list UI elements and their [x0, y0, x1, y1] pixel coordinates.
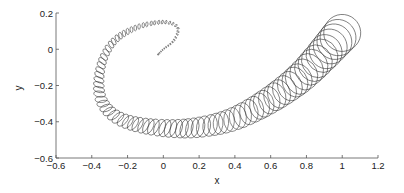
x-tick-label: 0.4	[228, 160, 241, 171]
trajectory-ellipse	[157, 20, 160, 25]
trajectory-ellipse	[189, 116, 207, 139]
trajectory-ellipse	[168, 21, 171, 25]
x-tick-label: 1.2	[371, 160, 384, 171]
trajectory-ellipse	[93, 90, 106, 98]
x-ticks: −0.6−0.4−0.200.20.40.60.811.2	[47, 155, 385, 171]
trajectory-ellipse	[159, 52, 160, 53]
trajectory-ellipse	[150, 21, 153, 26]
trajectory-ellipse	[99, 103, 113, 114]
trajectory-ellipse	[138, 24, 141, 30]
trajectory-ellipse	[115, 112, 131, 128]
trajectory-ellipse	[94, 70, 106, 79]
trajectory-ellipse	[177, 30, 180, 32]
trajectory-ellipse	[122, 30, 126, 37]
trajectory-ellipse	[166, 46, 167, 48]
trajectory-ellipse	[110, 110, 126, 125]
trajectory-ellipse	[145, 22, 148, 27]
trajectory-ellipse	[142, 23, 145, 28]
trajectory-ellipse	[170, 43, 171, 45]
trajectory-ellipse	[172, 41, 174, 43]
trajectory-ellipse	[161, 20, 164, 24]
y-axis-label: y	[13, 86, 24, 91]
trajectory-ellipse	[126, 28, 130, 35]
x-tick-label: −0.2	[118, 160, 137, 171]
trajectory-ellipse	[93, 75, 105, 84]
trajectory-ellipse	[120, 113, 136, 130]
trajectory-ellipse	[296, 40, 338, 83]
x-tick-label: 0.8	[300, 160, 313, 171]
trajectory-ellipse	[160, 51, 161, 52]
trajectory-ellipse	[293, 44, 334, 86]
trajectory-ellipse	[99, 52, 108, 61]
x-tick-label: 0.6	[264, 160, 277, 171]
trajectory-ellipse	[173, 39, 175, 41]
trajectory-ellipse	[317, 8, 367, 58]
y-ticks: 0.20−0.2−0.4−0.6	[34, 8, 59, 164]
ellipse-trajectory	[93, 8, 367, 140]
trajectory-ellipse	[218, 109, 235, 133]
y-tick-label: 0.2	[40, 8, 53, 19]
trajectory-ellipse	[175, 36, 177, 38]
trajectory-ellipse	[164, 20, 167, 24]
y-tick-label: 0	[48, 44, 53, 55]
x-tick-label: 0	[161, 160, 166, 171]
trajectory-ellipse	[176, 33, 179, 36]
trajectory-ellipse	[106, 108, 122, 122]
trajectory-ellipse	[285, 55, 322, 95]
trajectory-ellipse	[134, 25, 137, 31]
trajectory-ellipse	[96, 61, 107, 70]
y-tick-label: −0.6	[34, 153, 53, 164]
trajectory-ellipse	[164, 48, 165, 50]
trajectory-ellipse	[153, 20, 156, 25]
x-tick-label: 0.2	[193, 160, 206, 171]
x-tick-label: 1	[340, 160, 345, 171]
trajectory-ellipse	[261, 80, 289, 113]
trajectory-ellipse	[162, 49, 163, 51]
trajectory-ellipse	[224, 107, 241, 131]
trajectory-ellipse	[93, 85, 106, 94]
trajectory-ellipse	[130, 27, 133, 33]
spiral-ellipse-chart: −0.6−0.4−0.200.20.40.60.811.2 0.20−0.2−0…	[0, 0, 404, 193]
trajectory-ellipse	[114, 34, 120, 42]
trajectory-ellipse	[97, 56, 107, 65]
y-tick-label: −0.2	[34, 80, 53, 91]
y-tick-label: −0.4	[34, 116, 53, 127]
trajectory-ellipse	[264, 77, 293, 111]
trajectory-ellipse	[96, 99, 109, 107]
trajectory-ellipse	[171, 22, 174, 25]
x-axis-label: x	[215, 175, 220, 186]
trajectory-ellipse	[168, 45, 169, 47]
trajectory-ellipse	[174, 24, 177, 27]
trajectory-ellipse	[110, 37, 117, 45]
x-tick-label: −0.4	[82, 160, 101, 171]
trajectory-ellipse	[290, 49, 329, 90]
trajectory-ellipse	[176, 28, 179, 29]
trajectory-ellipse	[278, 64, 312, 101]
